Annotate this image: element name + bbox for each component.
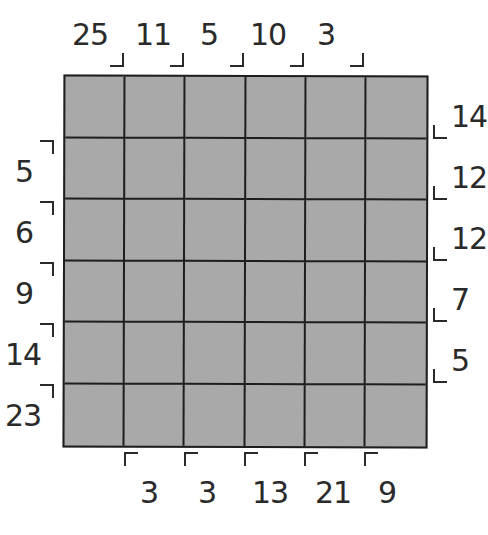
corner-mark-icon (304, 452, 318, 466)
corner-mark-icon (244, 452, 258, 466)
grid-cell[interactable] (65, 77, 125, 139)
corner-mark-icon (40, 323, 54, 337)
grid-cell[interactable] (65, 323, 125, 385)
grid-cell[interactable] (305, 323, 365, 385)
left-clue: 6 (15, 218, 33, 248)
left-clue: 14 (5, 340, 41, 370)
grid-cell[interactable] (65, 384, 125, 446)
corner-mark-icon (364, 452, 378, 466)
corner-mark-icon (40, 201, 54, 215)
top-clue: 25 (72, 20, 108, 50)
grid-cell[interactable] (125, 384, 185, 446)
top-clue: 5 (200, 20, 218, 50)
grid-cell[interactable] (366, 77, 426, 139)
bottom-clue: 3 (140, 478, 158, 508)
puzzle-grid (63, 75, 429, 449)
top-clue: 10 (250, 20, 286, 50)
corner-mark-icon (40, 262, 54, 276)
corner-mark-icon (290, 53, 304, 67)
grid-cell[interactable] (305, 262, 365, 324)
grid-cell[interactable] (366, 200, 426, 262)
grid-cell[interactable] (65, 261, 125, 323)
grid-cell[interactable] (245, 384, 305, 446)
corner-mark-icon (184, 452, 198, 466)
grid-cell[interactable] (185, 384, 245, 446)
grid-cell[interactable] (185, 200, 245, 262)
left-clue: 9 (15, 279, 33, 309)
grid-cell[interactable] (125, 77, 185, 139)
grid-cell[interactable] (65, 138, 125, 200)
corner-mark-icon (433, 186, 447, 200)
grid-cell[interactable] (245, 323, 305, 385)
grid-cell[interactable] (65, 200, 125, 262)
bottom-clue: 13 (252, 478, 288, 508)
corner-mark-icon (350, 53, 364, 67)
grid-cell[interactable] (125, 323, 185, 385)
corner-mark-icon (433, 247, 447, 261)
grid-cell[interactable] (185, 138, 245, 200)
bottom-clue: 21 (315, 478, 351, 508)
grid-cell[interactable] (246, 200, 306, 262)
corner-mark-icon (433, 308, 447, 322)
corner-mark-icon (433, 125, 447, 139)
grid-cell[interactable] (125, 261, 185, 323)
grid-cell[interactable] (246, 77, 306, 139)
right-clue: 7 (451, 285, 469, 315)
grid-cell[interactable] (186, 77, 246, 139)
corner-mark-icon (170, 53, 184, 67)
right-clue: 5 (451, 346, 469, 376)
top-clue: 11 (135, 20, 171, 50)
right-clue: 12 (451, 163, 487, 193)
corner-mark-icon (124, 452, 138, 466)
grid-cell[interactable] (306, 77, 366, 139)
grid-cell[interactable] (306, 139, 366, 201)
corner-mark-icon (40, 384, 54, 398)
corner-mark-icon (433, 369, 447, 383)
grid-cell[interactable] (246, 139, 306, 201)
corner-mark-icon (40, 140, 54, 154)
grid-cell[interactable] (305, 385, 365, 447)
right-clue: 14 (451, 102, 487, 132)
bottom-clue: 3 (198, 478, 216, 508)
grid-cell[interactable] (365, 385, 425, 447)
left-clue: 23 (5, 401, 41, 431)
grid-cell[interactable] (366, 139, 426, 201)
grid-cell[interactable] (306, 200, 366, 262)
left-clue: 5 (15, 157, 33, 187)
grid-cell[interactable] (366, 323, 426, 385)
grid-cell[interactable] (125, 138, 185, 200)
right-clue: 12 (451, 224, 487, 254)
grid-cell[interactable] (185, 323, 245, 385)
grid-cell[interactable] (125, 200, 185, 262)
bottom-clue: 9 (378, 478, 396, 508)
top-clue: 3 (317, 20, 335, 50)
grid-cell[interactable] (185, 261, 245, 323)
grid-cell[interactable] (366, 262, 426, 324)
corner-mark-icon (110, 53, 124, 67)
grid-cell[interactable] (245, 262, 305, 324)
corner-mark-icon (230, 53, 244, 67)
